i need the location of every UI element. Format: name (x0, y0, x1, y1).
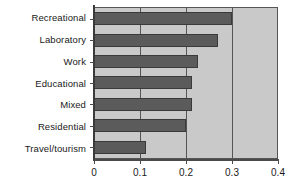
bar-row (94, 115, 277, 136)
bar-row (94, 51, 277, 72)
x-axis-tick (232, 159, 233, 164)
category-label: Recreational (0, 7, 90, 29)
bar (94, 12, 232, 25)
category-label: Laboratory (0, 29, 90, 51)
bar-row (94, 94, 277, 115)
bar (94, 34, 218, 47)
x-axis-tick (186, 159, 187, 164)
y-axis-tick (90, 147, 94, 148)
bar-row (94, 137, 277, 158)
category-label: Work (0, 50, 90, 72)
bar-row (94, 29, 277, 50)
bar (94, 55, 198, 68)
x-axis-tick (94, 159, 95, 164)
x-axis-tick (278, 159, 279, 164)
bar-chart-figure: RecreationalLaboratoryWorkEducationalMix… (0, 0, 300, 189)
x-axis-tick-label: 0.1 (133, 167, 147, 178)
y-axis-tick (90, 83, 94, 84)
bar (94, 98, 192, 111)
x-axis-tick (140, 159, 141, 164)
bar-group (94, 8, 277, 158)
plot-area (94, 7, 278, 159)
bar-row (94, 72, 277, 93)
category-label: Residential (0, 116, 90, 138)
x-axis-tick-label: 0.3 (225, 167, 239, 178)
category-label: Educational (0, 72, 90, 94)
x-axis-tick-label: 0 (91, 167, 97, 178)
x-axis-tick-label: 0.4 (271, 167, 285, 178)
bar (94, 141, 146, 154)
y-axis-tick (90, 19, 94, 20)
category-label: Mixed (0, 94, 90, 116)
y-axis-tick (90, 62, 94, 63)
bar (94, 119, 186, 132)
y-axis-tick (90, 126, 94, 127)
y-axis-tick (90, 104, 94, 105)
bar (94, 76, 192, 89)
x-axis-tick-label: 0.2 (179, 167, 193, 178)
category-label: Travel/tourism (0, 137, 90, 159)
y-axis-tick (90, 40, 94, 41)
category-label-column: RecreationalLaboratoryWorkEducationalMix… (0, 7, 90, 159)
bar-row (94, 8, 277, 29)
